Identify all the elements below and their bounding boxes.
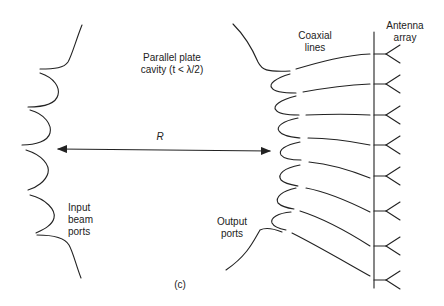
antenna-array xyxy=(374,32,400,289)
input-label-line2: beam xyxy=(68,214,104,226)
antenna-array-label: Antenna array xyxy=(377,20,433,44)
output-ports-label: Output ports xyxy=(212,216,252,240)
antenna-element xyxy=(374,106,400,124)
antenna-element xyxy=(374,167,400,185)
input-label-line1: Input xyxy=(68,202,104,214)
antenna-element xyxy=(374,237,400,255)
coax-label-line1: Coaxial xyxy=(290,30,340,42)
diagram-drawing xyxy=(0,0,444,306)
coax-label-line2: lines xyxy=(290,42,340,54)
input-beam-ports-label: Input beam ports xyxy=(68,202,104,238)
output-label-line2: ports xyxy=(212,228,252,240)
antenna-label-line2: array xyxy=(377,32,433,44)
input-beam-ports-contour xyxy=(22,25,82,278)
distance-label: R xyxy=(150,131,170,143)
cavity-label: Parallel plate cavity (t < λ/2) xyxy=(122,52,222,76)
coaxial-lines-label: Coaxial lines xyxy=(290,30,340,54)
cavity-label-line2: cavity (t < λ/2) xyxy=(122,64,222,76)
antenna-element xyxy=(374,136,400,154)
antenna-element xyxy=(374,45,400,63)
cavity-label-line1: Parallel plate xyxy=(122,52,222,64)
antenna-element xyxy=(374,75,400,93)
figure-tag: (c) xyxy=(165,279,195,291)
distance-arrow xyxy=(58,149,270,151)
rotman-lens-diagram: Parallel plate cavity (t < λ/2) Coaxial … xyxy=(0,0,444,306)
input-label-line3: ports xyxy=(68,226,104,238)
antenna-element xyxy=(374,271,400,289)
coaxial-lines xyxy=(292,54,370,276)
antenna-label-line1: Antenna xyxy=(377,20,433,32)
output-label-line1: Output xyxy=(212,216,252,228)
antenna-element xyxy=(374,202,400,220)
